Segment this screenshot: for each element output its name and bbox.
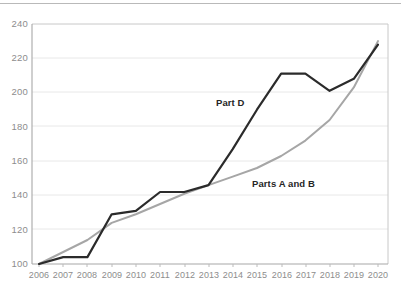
gridlines xyxy=(32,58,388,229)
plot-area xyxy=(0,0,401,288)
chart-container: 240 220 200 180 160 140 120 100 xyxy=(0,0,401,288)
x-axis-tick-2020: 2020 xyxy=(363,270,393,280)
series-line-parts-a-and-b xyxy=(39,41,378,264)
series-line-part-d xyxy=(39,45,378,264)
series-annotation-part-d: Part D xyxy=(216,97,245,108)
plot-frame xyxy=(32,24,388,264)
series-annotation-parts-a-and-b: Parts A and B xyxy=(252,178,315,189)
